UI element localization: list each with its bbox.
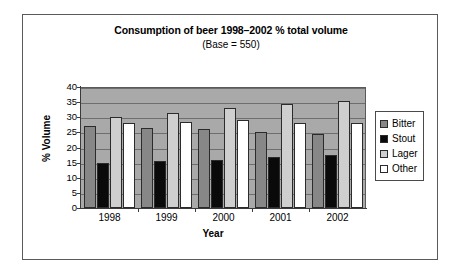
bar-bitter-2001 bbox=[255, 132, 267, 208]
bar-stout-1998 bbox=[97, 163, 109, 208]
bar-group-2000 bbox=[195, 88, 252, 208]
bar-stout-1999 bbox=[154, 161, 166, 208]
x-axis-tick-2000: 2000 bbox=[204, 212, 244, 223]
chart-subtitle: (Base = 550) bbox=[23, 39, 439, 50]
y-axis-tick-mark bbox=[77, 208, 81, 209]
legend-swatch-icon bbox=[380, 120, 388, 128]
bar-bitter-2000 bbox=[198, 129, 210, 208]
bar-lager-2002 bbox=[338, 101, 350, 208]
y-axis-tick-mark bbox=[77, 193, 81, 194]
legend-label: Stout bbox=[392, 133, 415, 144]
x-axis-tick-mark bbox=[195, 208, 196, 212]
legend-item-other[interactable]: Other bbox=[380, 161, 418, 176]
legend-item-bitter[interactable]: Bitter bbox=[380, 116, 418, 131]
y-axis-tick: 30 bbox=[55, 112, 77, 122]
bar-group-1998 bbox=[81, 88, 138, 208]
chart-figure: Consumption of beer 1998–2002 % total vo… bbox=[22, 14, 438, 260]
y-axis-tick-mark bbox=[77, 132, 81, 133]
bar-other-2000 bbox=[237, 120, 249, 208]
x-axis-tick-1999: 1999 bbox=[147, 212, 187, 223]
y-axis-tick-mark bbox=[77, 87, 81, 88]
plot-area bbox=[81, 87, 366, 208]
y-axis-tick: 10 bbox=[55, 173, 77, 183]
y-axis-tick-mark bbox=[77, 148, 81, 149]
y-axis-tick-mark bbox=[77, 163, 81, 164]
bar-stout-2000 bbox=[211, 160, 223, 208]
legend-label: Bitter bbox=[392, 118, 415, 129]
bar-group-2001 bbox=[252, 88, 309, 208]
legend-item-stout[interactable]: Stout bbox=[380, 131, 418, 146]
y-axis-tick-mark bbox=[77, 117, 81, 118]
y-axis-tick: 40 bbox=[55, 82, 77, 92]
y-axis-tick-mark bbox=[77, 102, 81, 103]
legend-item-lager[interactable]: Lager bbox=[380, 146, 418, 161]
bar-lager-1999 bbox=[167, 113, 179, 208]
y-axis-label: % Volume bbox=[41, 99, 52, 179]
bar-other-2002 bbox=[351, 123, 363, 208]
legend-label: Lager bbox=[392, 148, 418, 159]
bar-group-2002 bbox=[309, 88, 366, 208]
x-axis-tick-mark bbox=[138, 208, 139, 212]
legend-swatch-icon bbox=[380, 150, 388, 158]
y-axis-tick: 35 bbox=[55, 97, 77, 107]
legend-label: Other bbox=[392, 163, 417, 174]
bar-lager-1998 bbox=[110, 117, 122, 208]
x-axis-label: Year bbox=[63, 228, 363, 239]
x-axis-tick-mark bbox=[309, 208, 310, 212]
bar-group-1999 bbox=[138, 88, 195, 208]
y-axis-tick: 0 bbox=[55, 203, 77, 213]
y-axis-tick-mark bbox=[77, 178, 81, 179]
x-axis-tick-mark bbox=[252, 208, 253, 212]
bar-bitter-2002 bbox=[312, 134, 324, 208]
x-axis-tick-2002: 2002 bbox=[318, 212, 358, 223]
chart-title: Consumption of beer 1998–2002 % total vo… bbox=[23, 24, 439, 36]
bar-other-2001 bbox=[294, 123, 306, 208]
y-axis-tick: 25 bbox=[55, 127, 77, 137]
bar-stout-2001 bbox=[268, 157, 280, 208]
y-axis-tick: 20 bbox=[55, 143, 77, 153]
x-axis-line bbox=[80, 208, 367, 209]
y-axis-tick: 5 bbox=[55, 188, 77, 198]
bar-stout-2002 bbox=[325, 155, 337, 208]
y-axis-tick: 15 bbox=[55, 158, 77, 168]
x-axis-tick-2001: 2001 bbox=[261, 212, 301, 223]
bar-other-1999 bbox=[180, 122, 192, 208]
title-block: Consumption of beer 1998–2002 % total vo… bbox=[23, 24, 439, 50]
bar-bitter-1999 bbox=[141, 128, 153, 208]
chart-legend: BitterStoutLagerOther bbox=[375, 111, 424, 181]
legend-swatch-icon bbox=[380, 135, 388, 143]
legend-swatch-icon bbox=[380, 165, 388, 173]
bar-other-1998 bbox=[123, 123, 135, 208]
bar-lager-2001 bbox=[281, 104, 293, 208]
bar-bitter-1998 bbox=[84, 126, 96, 208]
x-axis-tick-1998: 1998 bbox=[90, 212, 130, 223]
bar-lager-2000 bbox=[224, 108, 236, 208]
y-axis-tick-labels: 0510152025303540 bbox=[51, 87, 77, 208]
